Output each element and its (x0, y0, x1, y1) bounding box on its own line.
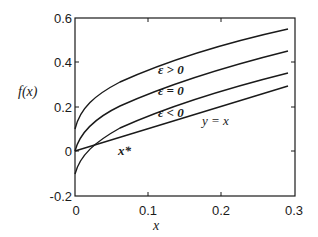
xtick-label: 0 (72, 203, 79, 218)
plot-frame (75, 18, 295, 196)
annotation-eps-negative: ε < 0 (158, 105, 184, 120)
xtick-label: 0.3 (285, 203, 303, 218)
ytick-label: 0.2 (54, 100, 72, 115)
x-axis-label: x (152, 218, 160, 233)
y-axis-label: f(x) (18, 84, 38, 100)
tick-marks (75, 18, 295, 196)
annotation-y-equals-x: y = x (200, 113, 229, 128)
ytick-label: 0.6 (54, 11, 72, 26)
ytick-label: 0.4 (54, 55, 72, 70)
xtick-label: 0.2 (212, 203, 230, 218)
annotation-x-star: x* (117, 143, 132, 158)
chart: 0.6 0.4 0.2 0 -0.2 0 0.1 0.2 0.3 f(x) x … (0, 0, 318, 237)
xtick-label: 0.1 (139, 203, 157, 218)
ytick-label: 0 (65, 144, 72, 159)
ytick-label: -0.2 (50, 189, 72, 204)
annotation-eps-positive: ε > 0 (158, 62, 184, 77)
annotation-eps-zero: ε = 0 (158, 83, 184, 98)
